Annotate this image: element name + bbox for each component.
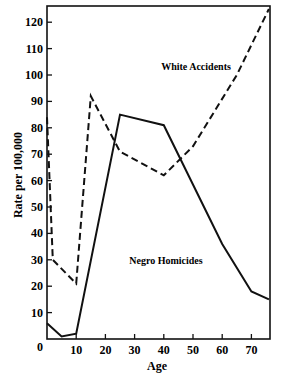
series-label-negro-homicides: Negro Homicides <box>129 255 203 266</box>
line-chart: 1020304050607080901001101200102030405060… <box>0 0 281 378</box>
y-tick-label: 60 <box>31 174 43 188</box>
y-tick-label: 100 <box>25 68 43 82</box>
x-tick-label: 50 <box>187 343 199 357</box>
x-tick-label: 30 <box>129 343 141 357</box>
x-tick-label: 60 <box>216 343 228 357</box>
plot-frame <box>47 6 270 339</box>
x-axis-title: Age <box>147 359 168 373</box>
series-label-white-accidents: White Accidents <box>161 61 231 72</box>
origin-label: 0 <box>37 340 43 354</box>
y-tick-label: 120 <box>25 15 43 29</box>
y-tick-label: 80 <box>31 121 43 135</box>
y-tick-label: 30 <box>31 253 43 267</box>
series-line-white-accidents <box>47 9 269 284</box>
x-tick-label: 40 <box>158 343 170 357</box>
y-tick-label: 20 <box>31 279 43 293</box>
y-tick-label: 10 <box>31 306 43 320</box>
y-tick-label: 50 <box>31 200 43 214</box>
y-tick-label: 40 <box>31 226 43 240</box>
x-tick-label: 20 <box>99 343 111 357</box>
y-tick-label: 70 <box>31 147 43 161</box>
x-tick-label: 70 <box>245 343 257 357</box>
y-tick-label: 90 <box>31 94 43 108</box>
x-tick-label: 10 <box>70 343 82 357</box>
y-axis-title: Rate per 100,000 <box>11 132 25 218</box>
y-tick-label: 110 <box>26 42 43 56</box>
